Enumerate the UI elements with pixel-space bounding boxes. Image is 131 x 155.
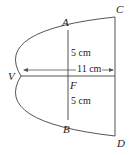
label-point-c: C [116, 4, 123, 15]
label-point-d: D [117, 138, 125, 149]
label-lower-half: 5 cm [71, 96, 91, 106]
label-point-b: B [63, 124, 70, 135]
label-point-a: A [62, 17, 69, 28]
label-point-v: V [8, 71, 15, 82]
label-depth: 11 cm [76, 64, 102, 74]
arrowhead-right-icon [109, 68, 114, 72]
label-point-f: F [70, 80, 77, 91]
parabola-diagram: A C V F B D 5 cm 11 cm 5 cm [0, 0, 131, 155]
arrowhead-left-icon [23, 68, 28, 72]
label-upper-half: 5 cm [71, 48, 91, 58]
